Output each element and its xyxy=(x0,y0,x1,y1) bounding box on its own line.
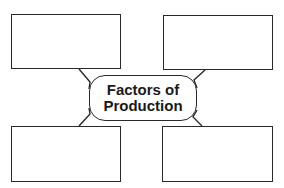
connector-bottom-left xyxy=(79,108,90,126)
box-bottom-right xyxy=(162,126,273,182)
box-bottom-left xyxy=(11,126,121,182)
connector-top-left xyxy=(79,69,90,89)
box-top-left xyxy=(11,14,121,69)
center-title-line-2: Production xyxy=(103,98,182,114)
center-title-line-1: Factors of xyxy=(107,82,180,98)
box-top-right xyxy=(163,15,273,70)
center-node: Factors of Production xyxy=(89,75,197,121)
